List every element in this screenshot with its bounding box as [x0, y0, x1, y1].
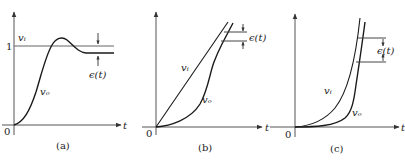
- input-label: vᵢ: [181, 62, 189, 73]
- output-label: vₒ: [40, 86, 50, 97]
- t-axis-label: t: [265, 122, 270, 133]
- output-curve: [14, 38, 114, 125]
- origin-label: 0: [285, 129, 291, 140]
- input-label: vᵢ: [18, 32, 26, 43]
- error-label: ϵ(t): [89, 69, 107, 80]
- panel-a: 1 vᵢ vₒ ϵ(t) 0 t (a): [2, 12, 128, 151]
- panel-b: vᵢ vₒ ϵ(t) 0 t (b): [142, 12, 270, 153]
- panel-caption: (c): [330, 143, 344, 154]
- level-one-label: 1: [6, 41, 12, 52]
- error-label: ϵ(t): [377, 45, 395, 56]
- output-curve: [156, 23, 233, 127]
- panel-caption: (a): [56, 140, 70, 151]
- panel-caption: (b): [198, 142, 212, 153]
- origin-label: 0: [146, 128, 152, 139]
- figure-canvas: 1 vᵢ vₒ ϵ(t) 0 t (a) vᵢ vₒ ϵ(t) 0 t (b) …: [0, 0, 405, 160]
- output-label: vₒ: [352, 107, 362, 118]
- t-axis-label: t: [123, 120, 128, 131]
- t-axis-label: t: [401, 122, 405, 133]
- origin-label: 0: [4, 126, 10, 137]
- error-label: ϵ(t): [249, 32, 267, 43]
- input-ramp-line: [156, 22, 228, 127]
- panel-c: vᵢ vₒ ϵ(t) 0 t (c): [270, 14, 405, 154]
- input-label: vᵢ: [324, 85, 332, 96]
- output-label: vₒ: [202, 94, 212, 105]
